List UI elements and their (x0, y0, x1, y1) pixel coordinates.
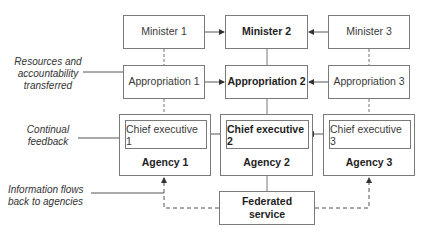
resources-annotation: Resources and accountability transferred (12, 56, 84, 92)
chief-executive-2-label: Chief executive 2 (227, 123, 308, 147)
appropriation-3-label: Appropriation 3 (333, 75, 404, 88)
appropriation-1-label: Appropriation 1 (128, 75, 199, 88)
minister-1-box: Minister 1 (123, 15, 205, 49)
resources-annotation-line3: transferred (12, 80, 84, 92)
information-annotation: Information flows back to agencies (8, 184, 90, 208)
federated-service-diagram: Minister 1 Minister 2 Minister 3 Appropr… (0, 0, 430, 236)
agency-2-label: Agency 2 (221, 156, 312, 168)
federated-service-line1: Federated (242, 195, 292, 208)
agency-1-box: Chief executive 1 Agency 1 (119, 114, 211, 176)
minister-3-label: Minister 3 (346, 25, 392, 38)
chief-executive-3-box: Chief executive 3 (329, 120, 411, 149)
resources-annotation-line2: accountability (12, 68, 84, 80)
chief-executive-2-box: Chief executive 2 (226, 120, 309, 149)
feedback-annotation: Continual feedback (20, 124, 76, 148)
information-annotation-line2: back to agencies (8, 196, 90, 208)
appropriation-2-label: Appropriation 2 (227, 75, 305, 88)
minister-2-box: Minister 2 (225, 15, 308, 49)
appropriation-1-box: Appropriation 1 (123, 65, 205, 99)
federated-service-line2: service (249, 208, 285, 221)
agency-3-label: Agency 3 (324, 156, 414, 168)
chief-executive-3-label: Chief executive 3 (330, 123, 410, 147)
minister-1-label: Minister 1 (141, 25, 187, 38)
agency-1-label: Agency 1 (120, 156, 210, 168)
feedback-annotation-line1: Continual (20, 124, 76, 136)
chief-executive-1-label: Chief executive 1 (126, 123, 206, 147)
agency-2-box: Chief executive 2 Agency 2 (220, 114, 313, 176)
minister-3-box: Minister 3 (328, 15, 410, 49)
appropriation-3-box: Appropriation 3 (328, 65, 410, 99)
minister-2-label: Minister 2 (242, 25, 291, 38)
federated-service-box: Federated service (219, 191, 315, 225)
agency-3-box: Chief executive 3 Agency 3 (323, 114, 415, 176)
chief-executive-1-box: Chief executive 1 (125, 120, 207, 149)
appropriation-2-box: Appropriation 2 (225, 65, 308, 99)
resources-annotation-line1: Resources and (12, 56, 84, 68)
feedback-annotation-line2: feedback (20, 136, 76, 148)
information-annotation-line1: Information flows (8, 184, 90, 196)
